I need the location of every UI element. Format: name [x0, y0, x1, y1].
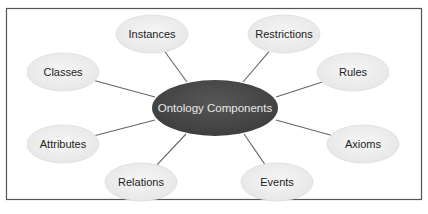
node-instances: Instances: [116, 15, 188, 53]
node-restrictions: Restrictions: [248, 15, 320, 53]
node-label: Relations: [118, 176, 164, 188]
node-label: Instances: [128, 28, 176, 40]
node-label: Classes: [43, 66, 83, 78]
node-events: Events: [241, 163, 313, 201]
node-label: Restrictions: [255, 28, 313, 40]
node-label: Attributes: [40, 138, 87, 150]
center-node: Ontology Components: [152, 80, 278, 136]
node-relations: Relations: [105, 163, 177, 201]
node-attributes: Attributes: [27, 125, 99, 163]
center-label: Ontology Components: [158, 102, 273, 114]
node-classes: Classes: [27, 53, 99, 91]
ontology-diagram: InstancesRestrictionsClassesRulesAttribu…: [0, 0, 428, 214]
node-label: Axioms: [345, 138, 382, 150]
node-axioms: Axioms: [327, 125, 399, 163]
node-label: Rules: [339, 66, 368, 78]
node-rules: Rules: [317, 53, 389, 91]
node-label: Events: [260, 176, 294, 188]
